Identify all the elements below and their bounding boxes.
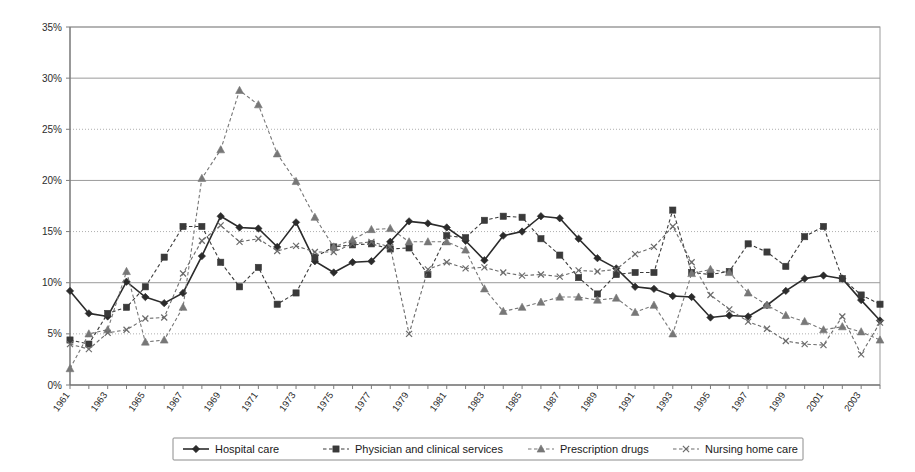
x-axis-label: 1965 [126, 390, 147, 414]
x-axis-label: 1999 [766, 390, 787, 414]
x-axis-label: 1969 [201, 390, 222, 414]
data-point-marker [255, 264, 261, 270]
x-axis-label: 1973 [277, 390, 298, 414]
y-axis-label: 0% [48, 380, 63, 391]
x-axis-label: 1963 [88, 390, 109, 414]
chart-legend: Hospital carePhysician and clinical serv… [173, 438, 803, 460]
y-axis-label: 35% [42, 22, 62, 33]
x-axis-label: 1985 [503, 390, 524, 414]
x-axis-label: 1991 [616, 390, 637, 414]
y-axis-label: 10% [42, 277, 62, 288]
data-point-marker [820, 223, 826, 229]
data-point-marker [783, 263, 789, 269]
data-point-marker [462, 235, 468, 241]
data-point-marker [199, 223, 205, 229]
legend-marker-square-icon [333, 446, 339, 452]
data-point-marker [802, 234, 808, 240]
chart-container: 0%5%10%15%20%25%30%35% 19611963196519671… [0, 0, 915, 472]
legend-item-label: Hospital care [215, 443, 279, 455]
x-axis-label: 1993 [653, 390, 674, 414]
y-axis-label: 30% [42, 73, 62, 84]
x-axis-label: 2003 [842, 390, 863, 414]
data-point-marker [839, 276, 845, 282]
y-axis-label: 15% [42, 226, 62, 237]
data-point-marker [519, 214, 525, 220]
data-point-marker [877, 301, 883, 307]
legend-item-label: Physician and clinical services [355, 443, 503, 455]
x-axis-label: 1977 [352, 390, 373, 414]
x-axis-label: 1981 [427, 390, 448, 414]
data-point-marker [670, 207, 676, 213]
y-axis-label: 5% [48, 328, 63, 339]
data-point-marker [557, 252, 563, 258]
plot-background [70, 27, 880, 385]
y-axis-label: 20% [42, 175, 62, 186]
x-axis-label: 1961 [51, 390, 72, 414]
x-axis-label: 1979 [390, 390, 411, 414]
x-axis-label: 1997 [729, 390, 750, 414]
legend-item-label: Prescription drugs [560, 443, 649, 455]
x-axis-label: 1995 [691, 390, 712, 414]
legend-item-label: Nursing home care [705, 443, 798, 455]
data-point-marker [142, 284, 148, 290]
x-axis-label: 1967 [164, 390, 185, 414]
y-axis-ticks: 0%5%10%15%20%25%30%35% [42, 22, 70, 391]
data-point-marker [274, 301, 280, 307]
data-point-marker [745, 241, 751, 247]
data-point-marker [481, 217, 487, 223]
data-point-marker [218, 259, 224, 265]
x-axis-label: 1971 [239, 390, 260, 414]
x-axis-labels: 1961196319651967196919711973197519771979… [51, 390, 863, 414]
y-axis-label: 25% [42, 124, 62, 135]
data-point-marker [576, 275, 582, 281]
x-axis-label: 2001 [804, 390, 825, 414]
data-point-marker [538, 236, 544, 242]
line-chart: 0%5%10%15%20%25%30%35% 19611963196519671… [0, 0, 915, 472]
data-point-marker [123, 304, 129, 310]
data-point-marker [764, 249, 770, 255]
data-point-marker [180, 223, 186, 229]
x-axis-label: 1987 [540, 390, 561, 414]
data-point-marker [293, 290, 299, 296]
data-point-marker [651, 269, 657, 275]
x-axis-label: 1983 [465, 390, 486, 414]
x-axis-ticks [70, 385, 880, 389]
data-point-marker [236, 284, 242, 290]
data-point-marker [406, 245, 412, 251]
data-point-marker [632, 269, 638, 275]
data-point-marker [500, 213, 506, 219]
data-point-marker [161, 254, 167, 260]
x-axis-label: 1975 [314, 390, 335, 414]
x-axis-label: 1989 [578, 390, 599, 414]
data-point-marker [858, 292, 864, 298]
data-point-marker [105, 310, 111, 316]
